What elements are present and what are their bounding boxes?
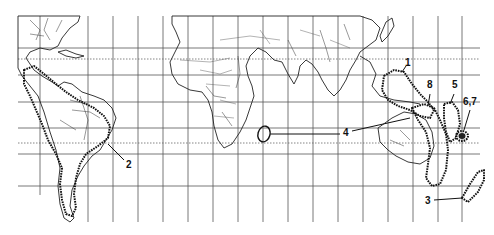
label-range-4: 4: [343, 128, 349, 138]
range-1-indonesia: [382, 70, 434, 118]
americas-landmass: [18, 16, 116, 222]
tropic-lines: [18, 59, 480, 143]
world-distribution-map: 1 2 3 4 5 6,7 8: [0, 0, 494, 235]
label-range-8: 8: [427, 80, 433, 90]
label-range-6-7: 6,7: [463, 97, 477, 107]
range-6-7-core: [459, 133, 466, 139]
range-2-south-america: [24, 66, 110, 216]
graticule-grid: [18, 16, 480, 222]
label-range-1: 1: [405, 58, 411, 68]
range-8-new-guinea-australia: [412, 104, 448, 186]
label-range-3: 3: [425, 196, 431, 206]
australia-landmass: [360, 56, 434, 164]
label-range-5: 5: [452, 80, 458, 90]
range-5-melanesia: [444, 102, 460, 142]
leader-2: [108, 144, 124, 160]
map-canvas: [0, 0, 494, 235]
label-range-2: 2: [126, 160, 132, 170]
